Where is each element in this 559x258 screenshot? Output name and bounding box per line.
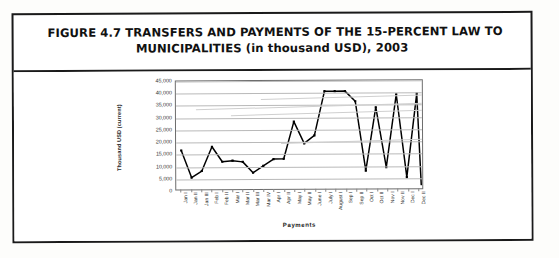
series-payments bbox=[176, 80, 422, 190]
x-axis-tick-label: Sep II bbox=[358, 192, 364, 222]
data-point-marker bbox=[334, 90, 336, 92]
data-point-marker bbox=[231, 160, 233, 162]
x-axis-tick-mark bbox=[263, 189, 264, 192]
y-axis-tick-label: 35,000 bbox=[138, 102, 172, 108]
data-point-marker bbox=[375, 106, 377, 108]
x-axis-tick-mark bbox=[180, 189, 181, 192]
data-point-marker bbox=[242, 161, 244, 163]
x-axis-tick-mark bbox=[387, 188, 388, 191]
x-axis-tick-label: July I bbox=[327, 192, 333, 222]
data-point-marker bbox=[344, 90, 346, 92]
x-axis-tick-mark bbox=[232, 189, 233, 192]
y-axis-tick-label: 25,000 bbox=[138, 126, 172, 132]
x-axis-tick-label: Mar I bbox=[234, 192, 240, 222]
x-axis-tick-label: May II bbox=[306, 192, 312, 222]
x-axis-tick-label: Feb I bbox=[213, 192, 219, 222]
x-axis-tick-mark bbox=[315, 189, 316, 192]
x-axis-tick-mark bbox=[304, 189, 305, 192]
x-axis-tick-mark bbox=[222, 189, 223, 192]
data-point-marker bbox=[354, 100, 356, 102]
y-axis-title: Thousand USD (current) bbox=[116, 95, 130, 181]
y-axis-tick-label: 30,000 bbox=[138, 114, 172, 120]
y-axis-tick-label: 0 bbox=[138, 187, 172, 193]
x-axis-tick-label: Oct I bbox=[368, 192, 374, 222]
data-point-marker bbox=[211, 146, 213, 148]
figure-frame: FIGURE 4.7 TRANSFERS AND PAYMENTS OF THE… bbox=[12, 11, 534, 243]
x-axis-tick-label: Dec I bbox=[410, 191, 416, 221]
data-point-marker bbox=[221, 161, 223, 163]
x-axis-tick-label: Dec II bbox=[420, 191, 426, 221]
x-axis-tick-label: June I bbox=[317, 192, 323, 222]
y-axis-tick-label: 40,000 bbox=[138, 90, 172, 96]
x-axis-tick-mark bbox=[408, 188, 409, 191]
x-axis-tick-mark bbox=[201, 189, 202, 192]
x-axis-tick-mark bbox=[325, 189, 326, 192]
line-chart: Thousand USD (current) 05,00010,00015,00… bbox=[122, 79, 433, 232]
x-axis-tick-mark bbox=[211, 189, 212, 192]
data-point-marker bbox=[272, 158, 274, 160]
x-axis-tick-label: Apr II bbox=[286, 192, 292, 222]
x-axis-tick-mark bbox=[294, 189, 295, 192]
x-axis-tick-label: Nov II bbox=[399, 191, 405, 221]
x-axis-tick-label: Jan II bbox=[193, 192, 199, 222]
data-point-marker bbox=[283, 158, 285, 160]
data-point-marker bbox=[180, 149, 182, 151]
data-point-marker bbox=[252, 172, 254, 174]
y-axis-tick-label: 10,000 bbox=[138, 163, 172, 169]
y-axis-tick-label: 15,000 bbox=[138, 151, 172, 157]
x-axis-tick-mark bbox=[242, 189, 243, 192]
x-axis-tick-mark bbox=[346, 189, 347, 192]
x-axis-tick-label: Apr I bbox=[275, 192, 281, 222]
x-axis-tick-mark bbox=[273, 189, 274, 192]
y-axis-tick-label: 20,000 bbox=[138, 139, 172, 145]
data-point-marker bbox=[313, 134, 315, 136]
x-axis-tick-label: Oct II bbox=[379, 192, 385, 222]
data-point-marker bbox=[293, 121, 295, 123]
x-axis-tick-mark bbox=[418, 188, 419, 191]
data-point-marker bbox=[323, 90, 325, 92]
x-axis-tick-label: Mar II bbox=[244, 192, 250, 222]
x-axis-tick-label: Feb II bbox=[224, 192, 230, 222]
data-point-marker bbox=[365, 169, 367, 171]
figure-title-line-1: FIGURE 4.7 TRANSFERS AND PAYMENTS OF THE… bbox=[42, 24, 503, 42]
figure-title-band: FIGURE 4.7 TRANSFERS AND PAYMENTS OF THE… bbox=[14, 13, 531, 72]
scanned-page: FIGURE 4.7 TRANSFERS AND PAYMENTS OF THE… bbox=[0, 0, 559, 258]
x-axis-tick-mark bbox=[284, 189, 285, 192]
x-axis-tick-mark bbox=[397, 188, 398, 191]
page-title: FIGURE 4.7 TRANSFERS AND PAYMENTS OF THE… bbox=[42, 24, 503, 57]
x-axis-tick-mark bbox=[335, 189, 336, 192]
y-axis-tick-label: 45,000 bbox=[138, 77, 172, 83]
x-axis-tick-label: Mar IV bbox=[265, 192, 271, 222]
data-point-marker bbox=[201, 170, 203, 172]
y-axis-tick-label: 5,000 bbox=[138, 175, 172, 181]
y-axis-tick-labels: 05,00010,00015,00020,00025,00030,00035,0… bbox=[138, 80, 172, 190]
x-axis-tick-mark bbox=[366, 189, 367, 192]
x-axis-tick-labels: Jan IJan IIJan IIIFeb IFeb IIMar IMar II… bbox=[175, 191, 423, 224]
x-axis-tick-label: Sep I bbox=[348, 192, 354, 222]
x-axis-tick-mark bbox=[356, 189, 357, 192]
chart-body: Thousand USD (current) 05,00010,00015,00… bbox=[14, 70, 532, 241]
x-axis-title: Payments bbox=[175, 221, 423, 228]
figure-title-line-2: MUNICIPALITIES (in thousand USD), 2003 bbox=[42, 39, 503, 57]
x-axis-tick-mark bbox=[253, 189, 254, 192]
x-axis-tick-label: May I bbox=[296, 192, 302, 222]
plot-area bbox=[175, 79, 423, 190]
x-axis-tick-mark bbox=[377, 189, 378, 192]
x-axis-tick-label: Nov I bbox=[389, 191, 395, 221]
x-axis-tick-mark bbox=[191, 189, 192, 192]
x-axis-tick-label: August I bbox=[337, 192, 343, 222]
x-axis-tick-label: Jan I bbox=[182, 192, 188, 222]
x-axis-tick-label: Mar III bbox=[255, 192, 261, 222]
x-axis-tick-label: Jan III bbox=[203, 192, 209, 222]
